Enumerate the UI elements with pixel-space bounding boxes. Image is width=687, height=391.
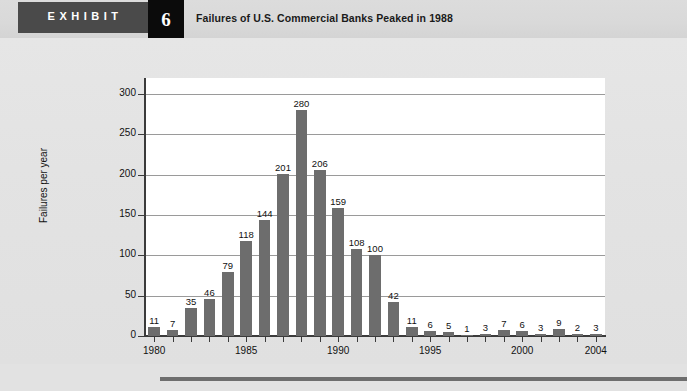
x-tick-mark-1981 [173, 337, 174, 342]
x-tick-mark-1984 [228, 337, 229, 342]
y-tick-label-300: 300 [96, 87, 136, 98]
x-tick-mark-1995 [430, 337, 431, 342]
bar-rect-1997 [461, 335, 472, 337]
bar-2004[interactable] [590, 78, 601, 336]
bar-1998[interactable] [480, 78, 491, 336]
x-tick-mark-1993 [393, 337, 394, 342]
x-tick-label-1980: 1980 [131, 345, 177, 356]
bar-1988[interactable] [296, 78, 307, 336]
x-tick-mark-1983 [209, 337, 210, 342]
y-axis-title: Failures per year [38, 126, 49, 246]
bar-1990[interactable] [332, 78, 343, 336]
bar-1994[interactable] [406, 78, 417, 336]
bar-1995[interactable] [424, 78, 435, 336]
bar-rect-1985 [240, 241, 251, 336]
x-tick-mark-2003 [577, 337, 578, 342]
x-tick-mark-1990 [338, 337, 339, 342]
bar-rect-1988 [296, 110, 307, 336]
bar-1991[interactable] [351, 78, 362, 336]
y-tick-mark-50 [138, 296, 144, 297]
y-tick-mark-100 [138, 255, 144, 256]
x-tick-label-1985: 1985 [223, 345, 269, 356]
x-tick-mark-1991 [357, 337, 358, 342]
x-tick-mark-2000 [522, 337, 523, 342]
bar-value-2004: 3 [576, 322, 616, 333]
bar-rect-2001 [535, 334, 546, 336]
bar-rect-1981 [167, 330, 178, 336]
x-tick-mark-2004 [596, 337, 597, 342]
x-tick-mark-1988 [301, 337, 302, 342]
bar-rect-1983 [204, 299, 215, 336]
bar-rect-1982 [185, 308, 196, 336]
bar-rect-1991 [351, 249, 362, 336]
x-tick-mark-2001 [541, 337, 542, 342]
bar-2000[interactable] [516, 78, 527, 336]
bar-1980[interactable] [148, 78, 159, 336]
bar-1987[interactable] [277, 78, 288, 336]
y-axis-line [144, 78, 146, 337]
y-tick-label-50: 50 [96, 289, 136, 300]
y-tick-label-100: 100 [96, 248, 136, 259]
x-tick-mark-1989 [320, 337, 321, 342]
y-tick-label-200: 200 [96, 168, 136, 179]
x-tick-mark-1998 [485, 337, 486, 342]
x-tick-mark-1997 [467, 337, 468, 342]
bar-rect-1995 [424, 331, 435, 336]
bar-1997[interactable] [461, 78, 472, 336]
x-tick-mark-1994 [412, 337, 413, 342]
y-tick-mark-250 [138, 134, 144, 135]
bar-chart: Failures per year 0501001502002503001119… [0, 0, 687, 391]
bar-1984[interactable] [222, 78, 233, 336]
bar-1996[interactable] [443, 78, 454, 336]
bar-rect-2003 [572, 334, 583, 336]
bar-rect-1984 [222, 272, 233, 336]
y-tick-label-0: 0 [96, 329, 136, 340]
bar-rect-1987 [277, 174, 288, 336]
x-tick-mark-1996 [449, 337, 450, 342]
y-tick-label-250: 250 [96, 127, 136, 138]
x-tick-mark-1986 [265, 337, 266, 342]
bar-1989[interactable] [314, 78, 325, 336]
bar-rect-1998 [480, 334, 491, 336]
bar-2003[interactable] [572, 78, 583, 336]
x-tick-label-2004: 2004 [573, 345, 619, 356]
y-tick-mark-200 [138, 175, 144, 176]
x-tick-mark-1999 [504, 337, 505, 342]
bar-rect-1986 [259, 220, 270, 336]
x-tick-label-2000: 2000 [499, 345, 545, 356]
x-tick-mark-1987 [283, 337, 284, 342]
bar-2002[interactable] [553, 78, 564, 336]
bar-1999[interactable] [498, 78, 509, 336]
y-tick-label-150: 150 [96, 208, 136, 219]
bar-rect-1999 [498, 330, 509, 336]
x-tick-mark-1985 [246, 337, 247, 342]
x-tick-mark-2002 [559, 337, 560, 342]
y-tick-mark-150 [138, 215, 144, 216]
x-tick-label-1995: 1995 [407, 345, 453, 356]
x-tick-mark-1980 [154, 337, 155, 342]
x-tick-mark-1992 [375, 337, 376, 342]
bar-rect-2004 [590, 334, 601, 336]
y-tick-mark-0 [138, 336, 144, 337]
y-tick-mark-300 [138, 94, 144, 95]
bar-2001[interactable] [535, 78, 546, 336]
x-tick-label-1990: 1990 [315, 345, 361, 356]
bar-rect-1990 [332, 208, 343, 336]
x-tick-mark-1982 [191, 337, 192, 342]
